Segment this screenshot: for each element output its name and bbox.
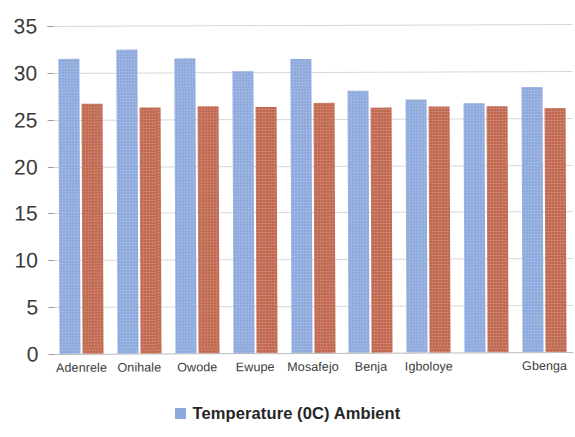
y-tick-mark	[48, 260, 54, 261]
bar	[371, 108, 393, 353]
gridlines	[51, 24, 572, 26]
bar	[313, 103, 335, 353]
bar	[81, 104, 103, 354]
legend-swatch-icon	[175, 408, 186, 419]
y-tick-mark	[49, 354, 55, 355]
bar	[464, 103, 486, 352]
chart-legend: Temperature (0C) Ambient	[0, 404, 575, 423]
legend-entry-ambient: Temperature (0C) Ambient	[175, 404, 401, 423]
bar	[139, 108, 161, 354]
bar-chart: 05101520253035 AdenreleOnihaleOwodeEwupe…	[0, 0, 575, 437]
y-tick-mark	[48, 120, 54, 121]
y-tick-label: 25	[14, 109, 38, 130]
y-tick-label: 0	[27, 343, 39, 364]
plot-area	[51, 24, 573, 354]
x-tick-label: Benja	[355, 360, 388, 374]
bar	[290, 59, 312, 353]
y-tick-mark	[48, 213, 54, 214]
bar	[255, 108, 277, 354]
y-tick-label: 15	[14, 203, 38, 224]
bar	[116, 50, 138, 354]
y-tick-label: 30	[14, 62, 38, 83]
y-tick-mark	[48, 166, 54, 167]
y-tick-mark	[47, 26, 53, 27]
y-tick-mark	[47, 73, 53, 74]
bar	[58, 59, 80, 354]
x-tick-label: Mosafejo	[287, 360, 339, 374]
bar	[197, 106, 219, 353]
legend-label: Temperature (0C) Ambient	[193, 404, 401, 423]
x-tick-label: Onihale	[117, 360, 161, 374]
x-tick-label: Igboloye	[405, 359, 453, 373]
x-tick-label: Owode	[177, 360, 217, 374]
x-tick-label: Ewupe	[236, 360, 275, 374]
y-axis: 05101520253035	[0, 1, 47, 437]
bar	[232, 71, 254, 353]
bar	[429, 107, 451, 353]
y-tick-label: 20	[14, 156, 38, 177]
bar	[522, 87, 544, 352]
bar	[406, 99, 428, 352]
y-tick-label: 10	[14, 250, 38, 271]
y-tick-label: 35	[13, 15, 37, 36]
bar	[174, 58, 196, 353]
y-tick-mark	[48, 307, 54, 308]
bar	[545, 108, 567, 352]
x-tick-label: Adenrele	[56, 361, 107, 375]
bar	[348, 90, 370, 352]
bar	[487, 107, 509, 353]
y-tick-label: 5	[26, 297, 38, 318]
gridline	[51, 24, 572, 27]
x-tick-label: Gbenga	[522, 359, 567, 373]
x-axis: AdenreleOnihaleOwodeEwupeMosafejoBenjaIg…	[53, 359, 574, 389]
